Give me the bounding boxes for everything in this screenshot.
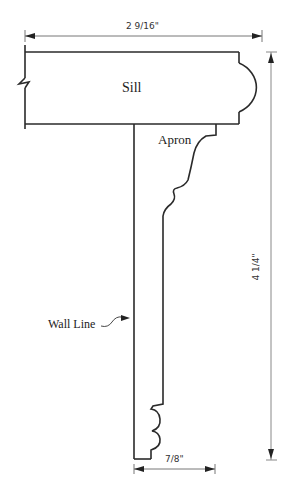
arrow-down-icon — [268, 449, 274, 459]
sill-label: Sill — [122, 80, 141, 96]
overall-width-label: 2 9/16" — [126, 21, 159, 31]
apron-thickness-label: 7/8" — [165, 454, 184, 464]
thickness-dimension — [134, 464, 215, 474]
arrow-right-icon — [252, 33, 262, 39]
leader-arrow-icon — [121, 315, 130, 321]
wall-line-label: Wall Line — [48, 317, 95, 332]
wall-line-leader — [101, 317, 122, 327]
arrow-left-icon — [25, 33, 35, 39]
arrow-left-icon — [134, 466, 144, 472]
apron-label: Apron — [158, 132, 191, 148]
overall-height-label: 4 1/4" — [251, 253, 261, 280]
width-dimension — [25, 30, 262, 42]
profile-drawing — [0, 0, 290, 495]
height-dimension — [266, 52, 277, 460]
arrow-up-icon — [268, 53, 274, 63]
arrow-right-icon — [205, 466, 215, 472]
apron-profile — [134, 124, 216, 459]
